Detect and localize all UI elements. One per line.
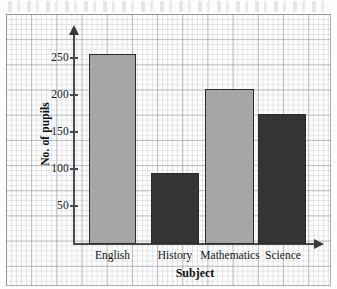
y-axis-line [73, 33, 75, 245]
y-tick-label-4: 250 [29, 51, 69, 63]
category-label-science: Science [248, 249, 318, 261]
y-tick-label-0: 50 [29, 199, 69, 211]
y-axis-arrow-icon [69, 25, 79, 35]
y-axis-title: No. of pupils [39, 84, 51, 184]
bar-history [151, 173, 199, 244]
x-axis-arrow-icon [314, 239, 324, 249]
bar-chart-screenshot: 50 100 150 200 250 English History Mathe… [0, 0, 337, 289]
bar-mathematics [205, 89, 254, 244]
y-tick-mark-3 [70, 94, 78, 96]
bar-english [89, 54, 136, 244]
bar-science [258, 114, 306, 244]
y-tick-mark-0 [70, 205, 78, 207]
y-tick-mark-4 [70, 57, 78, 59]
plot-area: 50 100 150 200 250 English History Mathe… [0, 0, 337, 289]
y-tick-mark-2 [70, 131, 78, 133]
x-axis-title: Subject [140, 266, 250, 281]
y-tick-mark-1 [70, 168, 78, 170]
